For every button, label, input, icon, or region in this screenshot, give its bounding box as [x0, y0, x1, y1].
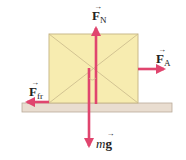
normal-force-label: → FN [92, 9, 106, 22]
applied-force-label: → FA [156, 52, 170, 65]
free-body-diagram [0, 0, 186, 160]
ground-surface [22, 103, 172, 112]
box [49, 34, 138, 103]
friction-force-label: → Ffr [29, 85, 43, 98]
weight-label: m→g [96, 137, 112, 150]
